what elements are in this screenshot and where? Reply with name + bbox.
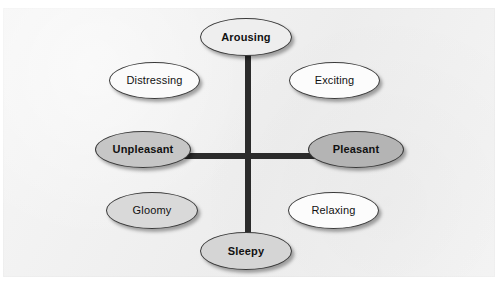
- node-pleasant[interactable]: Pleasant: [308, 131, 404, 168]
- node-sleepy[interactable]: Sleepy: [200, 232, 292, 270]
- node-label-sleepy: Sleepy: [228, 246, 264, 257]
- node-label-relaxing: Relaxing: [311, 205, 355, 216]
- node-label-pleasant: Pleasant: [333, 144, 379, 155]
- node-label-distressing: Distressing: [126, 75, 182, 86]
- node-distressing[interactable]: Distressing: [109, 62, 200, 99]
- node-arousing[interactable]: Arousing: [200, 18, 292, 56]
- valence-axis-line: [175, 153, 327, 159]
- diagram-panel: Arousing Distressing Exciting Unpleasant…: [3, 8, 495, 277]
- node-relaxing[interactable]: Relaxing: [288, 192, 379, 229]
- node-exciting[interactable]: Exciting: [289, 62, 380, 99]
- node-unpleasant[interactable]: Unpleasant: [95, 131, 191, 168]
- node-label-unpleasant: Unpleasant: [113, 144, 174, 155]
- node-label-exciting: Exciting: [315, 75, 355, 86]
- node-gloomy[interactable]: Gloomy: [106, 192, 198, 229]
- arousal-axis-line: [245, 52, 251, 248]
- node-label-gloomy: Gloomy: [133, 205, 172, 216]
- affect-circumplex-figure: Arousing Distressing Exciting Unpleasant…: [0, 0, 501, 286]
- node-label-arousing: Arousing: [221, 32, 270, 43]
